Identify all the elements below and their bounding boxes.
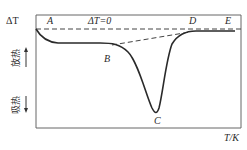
baseline-label: ΔT=0 <box>87 15 111 26</box>
point-c-label: C <box>154 115 161 126</box>
point-b-label: B <box>104 53 110 64</box>
up-arrowhead-icon <box>24 47 28 52</box>
point-d-label: D <box>188 15 197 26</box>
y-axis-label: ΔT <box>6 15 19 26</box>
point-e-label: E <box>224 15 231 26</box>
endothermic-label: 吸热 <box>10 96 21 114</box>
dta-curve <box>36 29 235 113</box>
extrapolated-baseline <box>112 32 190 45</box>
x-axis-label: T/K <box>224 132 240 143</box>
point-a-label: A <box>46 15 54 26</box>
down-arrowhead-icon <box>24 108 28 113</box>
exothermic-label: 放热 <box>10 49 21 67</box>
dta-diagram: A B C D E ΔT=0 ΔT T/K 放热 吸热 <box>0 0 247 150</box>
